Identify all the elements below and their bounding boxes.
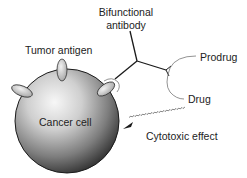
tumor-antigen-top	[57, 59, 67, 81]
label-cancer-cell: Cancer cell	[39, 116, 92, 128]
arrowhead-icon	[123, 122, 133, 129]
label-bifunctional: Bifunctional	[96, 6, 156, 18]
cytotoxic-arrow	[123, 107, 185, 129]
label-tumor-antigen: Tumor antigen	[25, 44, 92, 56]
label-antibody: antibody	[96, 19, 156, 31]
label-prodrug: Prodrug	[200, 51, 237, 63]
label-cytotoxic-effect: Cytotoxic effect	[146, 130, 218, 142]
label-drug: Drug	[188, 93, 211, 105]
